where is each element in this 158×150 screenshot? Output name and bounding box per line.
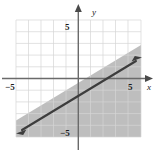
x-axis-label: x <box>147 83 151 92</box>
tick-label-x-negative-5: −5 <box>5 83 15 92</box>
tick-label-y-negative-5: −5 <box>60 129 70 138</box>
coordinate-plane-figure: y x 5 −5 −5 5 <box>0 0 158 150</box>
y-axis-label: y <box>92 8 96 17</box>
tick-label-y-positive-5: 5 <box>65 23 70 32</box>
tick-label-x-positive-5: 5 <box>128 83 133 92</box>
graph-canvas <box>0 0 158 150</box>
